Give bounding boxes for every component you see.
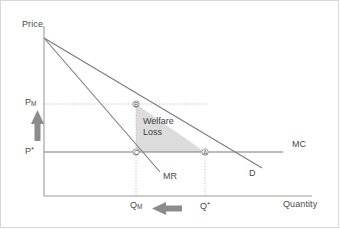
price-tick-pm: PM [25,98,37,108]
welfare-loss-label-line1: Welfare [143,116,174,127]
welfare-loss-label-line2: Loss [143,127,174,138]
diagram-canvas: Price Quantity PM P* QM Q* D MR MC B C A… [0,0,340,229]
demand-curve-label: D [249,169,256,178]
price-up-arrow [31,110,44,141]
price-tick-pstar: P* [25,146,34,156]
quantity-tick-qstar-superscript: * [207,200,210,209]
quantity-tick-qstar: Q* [200,201,210,211]
economics-graph [0,0,340,229]
marginal-revenue-curve-label: MR [163,172,177,181]
quantity-left-arrow [152,202,182,215]
marginal-cost-curve-label: MC [292,140,306,149]
price-tick-pstar-superscript: * [31,145,34,154]
welfare-loss-label: Welfare Loss [143,116,174,138]
point-b-label: B [134,101,138,108]
quantity-tick-qm-subscript: M [137,203,143,210]
point-c-label: C [134,149,139,156]
y-axis-label: Price [22,20,43,29]
point-a-label: A [203,149,207,156]
price-tick-pm-subscript: M [31,100,37,107]
quantity-tick-qm: QM [130,201,143,211]
x-axis-label: Quantity [283,200,317,209]
